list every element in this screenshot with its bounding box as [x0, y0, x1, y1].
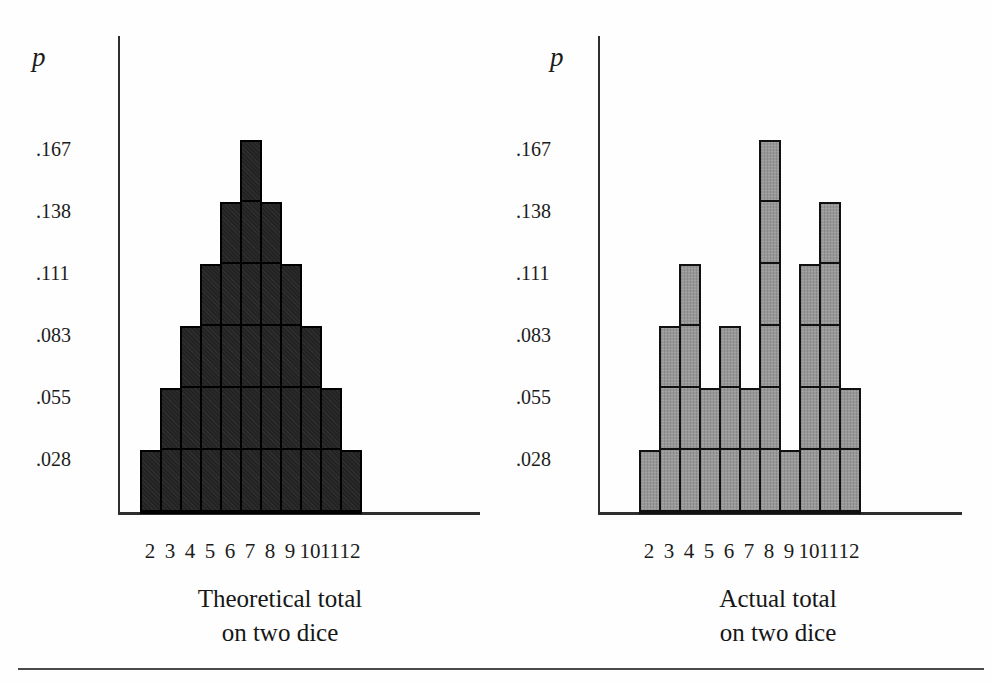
bar-total-5 — [699, 388, 721, 514]
y-tick-label-111: .111 — [36, 260, 98, 286]
y-axis-title-theoretical: p — [32, 42, 46, 73]
y-tick-label-138: .138 — [516, 198, 578, 224]
bar-total-5 — [200, 264, 222, 514]
bar-total-12 — [839, 388, 861, 514]
chart-title-actual: Actual total on two dice — [618, 582, 938, 650]
chart-title-line2: on two dice — [120, 616, 440, 650]
bar-total-10 — [799, 264, 821, 514]
chart-title-line1: Theoretical total — [120, 582, 440, 616]
chart-title-line1: Actual total — [618, 582, 938, 616]
y-tick-label-083: .083 — [36, 322, 98, 348]
bar-total-8 — [759, 140, 781, 514]
bar-total-2 — [639, 450, 661, 514]
bar-total-4 — [679, 264, 701, 514]
y-tick-label-111: .111 — [516, 260, 578, 286]
y-tick-label-167: .167 — [516, 136, 578, 162]
figure-bottom-rule — [18, 668, 984, 670]
bar-total-9 — [280, 264, 302, 514]
dice-probability-figure: p p Theoretical total on two dice Actual… — [0, 0, 993, 683]
bar-total-6 — [220, 202, 242, 514]
y-axis-title-actual: p — [550, 42, 564, 73]
y-axis-line — [598, 36, 600, 515]
bar-total-2 — [140, 450, 162, 514]
bar-total-6 — [719, 326, 741, 514]
y-tick-label-028: .028 — [516, 446, 578, 472]
bar-total-12 — [340, 450, 362, 514]
y-tick-label-167: .167 — [36, 136, 98, 162]
bar-total-9 — [779, 450, 801, 514]
x-tick-label-12: 12 — [335, 539, 365, 563]
y-tick-label-055: .055 — [36, 384, 98, 410]
bar-total-7 — [739, 388, 761, 514]
bar-total-11 — [320, 388, 342, 514]
bar-total-11 — [819, 202, 841, 514]
bar-total-3 — [659, 326, 681, 514]
bar-total-7 — [240, 140, 262, 514]
chart-title-theoretical: Theoretical total on two dice — [120, 582, 440, 650]
chart-title-line2: on two dice — [618, 616, 938, 650]
y-tick-label-083: .083 — [516, 322, 578, 348]
bar-total-4 — [180, 326, 202, 514]
bar-total-3 — [160, 388, 182, 514]
y-tick-label-138: .138 — [36, 198, 98, 224]
x-tick-label-12: 12 — [834, 539, 864, 563]
bar-total-10 — [300, 326, 322, 514]
y-tick-label-028: .028 — [36, 446, 98, 472]
bar-total-8 — [260, 202, 282, 514]
y-axis-line — [118, 36, 120, 515]
y-tick-label-055: .055 — [516, 384, 578, 410]
